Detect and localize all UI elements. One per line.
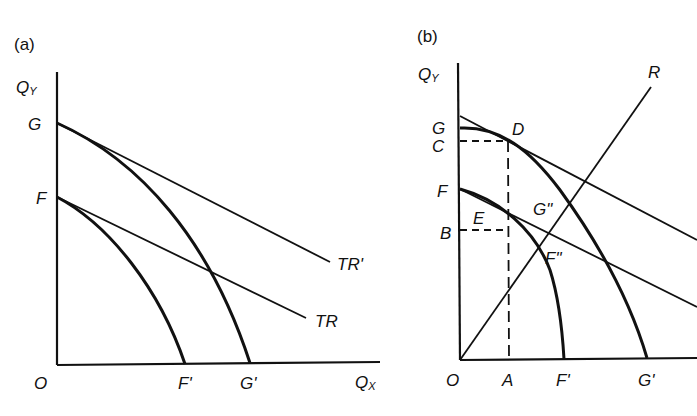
intercept-f-label: F — [437, 182, 449, 201]
intercept-f-prime-label: F' — [178, 374, 192, 393]
x-axis-label: QX — [355, 373, 376, 392]
origin-label: O — [446, 371, 459, 390]
y-axis-label: QY — [16, 78, 37, 97]
intercept-f-label: F — [36, 189, 48, 208]
guide-a-vertical — [508, 141, 509, 359]
ray-or — [460, 87, 651, 360]
price-line-lower — [460, 189, 697, 307]
price-line-upper — [460, 116, 697, 240]
intercept-c-label: C — [432, 137, 445, 156]
panel-b: (b) QY O G C F B A F' G' R D E G" F" — [417, 27, 697, 390]
point-f-double-prime-label: F" — [545, 249, 562, 268]
tr-line — [57, 197, 306, 318]
intercept-g-prime-label: G' — [638, 371, 655, 390]
x-axis — [57, 362, 380, 365]
intercept-g-prime-label: G' — [240, 374, 257, 393]
intercept-g-label: G — [432, 119, 445, 138]
intercept-g-label: G — [28, 115, 41, 134]
y-axis-label: QY — [418, 65, 439, 84]
panel-a-label: (a) — [14, 35, 35, 54]
tr-label: TR — [315, 312, 338, 331]
ray-r-label: R — [648, 63, 660, 82]
ppf-curve-gg — [460, 128, 647, 358]
ppf-curve-ff — [57, 197, 185, 364]
intercept-f-prime-label: F' — [556, 371, 570, 390]
y-axis — [458, 63, 460, 360]
point-d-label: D — [512, 120, 524, 139]
diagram-canvas: (a) QY QX O G F F' G' TR' TR (b) QY O G … — [0, 0, 697, 416]
intercept-a-label: A — [501, 371, 513, 390]
tr-prime-label: TR' — [337, 255, 364, 274]
panel-b-label: (b) — [417, 27, 438, 46]
intercept-b-label: B — [440, 224, 451, 243]
origin-label: O — [34, 374, 47, 393]
point-e-label: E — [473, 209, 485, 228]
panel-a: (a) QY QX O G F F' G' TR' TR — [14, 35, 380, 393]
x-axis — [460, 358, 697, 360]
point-g-double-prime-label: G" — [533, 200, 553, 219]
